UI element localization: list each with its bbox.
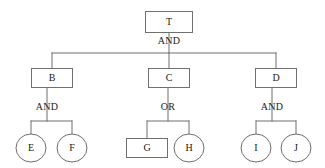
node-d[interactable]: D (256, 69, 297, 88)
node-f-label: F (69, 142, 75, 153)
node-f[interactable]: F (57, 134, 87, 162)
node-i-label: I (254, 142, 257, 153)
node-c[interactable]: C (149, 69, 190, 88)
node-g-label: G (143, 142, 150, 153)
node-e-label: E (28, 142, 34, 153)
fault-tree-diagram: TBCDEFGHIJ ANDANDORAND (0, 0, 325, 168)
node-j[interactable]: J (281, 134, 311, 162)
node-t-label: T (166, 16, 172, 27)
node-b-label: B (49, 72, 56, 83)
node-h-label: H (185, 142, 192, 153)
node-t[interactable]: T (146, 12, 193, 33)
node-h[interactable]: H (174, 134, 204, 162)
gate-top-label: AND (158, 35, 181, 46)
diagram-canvas: TBCDEFGHIJ ANDANDORAND (0, 0, 325, 168)
node-layer: TBCDEFGHIJ (16, 12, 311, 163)
node-d-label: D (272, 72, 279, 83)
node-j-label: J (294, 142, 298, 153)
node-b[interactable]: B (32, 69, 73, 88)
gate-right-label: AND (261, 101, 284, 112)
node-i[interactable]: I (241, 134, 271, 162)
gate-middle-label: OR (161, 101, 176, 112)
node-g[interactable]: G (127, 139, 168, 158)
node-e[interactable]: E (16, 134, 46, 162)
node-c-label: C (166, 72, 173, 83)
gate-left-label: AND (36, 101, 59, 112)
